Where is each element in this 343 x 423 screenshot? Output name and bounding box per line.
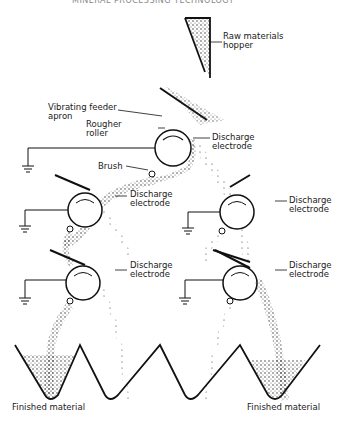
label-line: electrode [130, 270, 173, 279]
label-line: electrode [130, 199, 173, 208]
label-finished-material-left: Finished material [12, 403, 85, 412]
label-finished-material-right: Finished material [247, 403, 320, 412]
mid-left-roller [19, 175, 102, 232]
label-rougher-roller: Rougher roller [86, 120, 122, 138]
low-left-roller [19, 250, 100, 304]
label-line: hopper [223, 41, 284, 50]
label-line: electrode [212, 142, 255, 151]
label-line: electrode [289, 205, 332, 214]
label-raw-materials-hopper: Raw materials hopper [223, 32, 284, 50]
label-discharge-electrode-low-right: Discharge electrode [289, 261, 332, 279]
label-discharge-electrode-top: Discharge electrode [212, 133, 255, 151]
label-line: roller [86, 129, 122, 138]
label-discharge-electrode-mid-left: Discharge electrode [130, 190, 173, 208]
label-discharge-electrode-mid-right: Discharge electrode [289, 196, 332, 214]
label-brush: Brush [98, 162, 123, 171]
label-line: electrode [289, 270, 332, 279]
hopper [185, 18, 210, 78]
label-discharge-electrode-low-left: Discharge electrode [130, 261, 173, 279]
